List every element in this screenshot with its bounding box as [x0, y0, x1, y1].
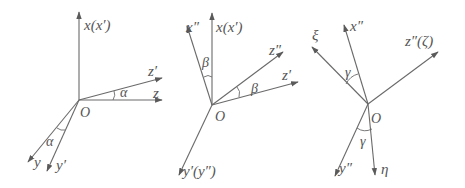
label-z-prime: z′ — [281, 67, 292, 83]
label-z-prime: z′ — [147, 63, 158, 79]
label-angle-gamma-2: γ — [360, 134, 366, 149]
label-angle-alpha-2: α — [46, 134, 54, 149]
label-x-x-prime: x(x′) — [83, 17, 111, 34]
angle-arc-beta-z — [237, 87, 240, 97]
panel-rotation-beta: x″ x(x′) β z″ z′ β O y′(y″) — [179, 13, 298, 180]
label-y-prime-y-double-prime: y′(y″) — [181, 163, 216, 180]
label-xi: ξ — [312, 27, 319, 43]
label-angle-beta-2: β — [250, 81, 258, 96]
y-axis — [28, 100, 79, 162]
panel-rotation-alpha: x(x′) z′ z α O α y y′ — [28, 12, 162, 173]
panel-rotation-gamma: ξ x″ γ z″(ζ) O γ y″ η — [312, 18, 438, 177]
zeta-axis — [368, 52, 438, 104]
label-y-prime: y′ — [54, 157, 67, 173]
label-origin: O — [80, 105, 90, 120]
label-z-double-prime: z″ — [268, 42, 282, 58]
label-y: y — [32, 154, 41, 170]
label-angle-gamma-1: γ — [345, 65, 351, 80]
label-angle-beta-1: β — [201, 55, 209, 70]
label-eta: η — [381, 161, 388, 177]
label-z-double-prime-zeta: z″(ζ) — [404, 33, 433, 50]
label-x-double-prime: x″ — [185, 19, 200, 35]
label-x-x-prime: x(x′) — [215, 19, 243, 36]
label-z: z — [152, 85, 159, 101]
label-origin: O — [215, 109, 225, 124]
angle-arc-beta-x — [204, 76, 212, 78]
angle-arc-alpha-y — [57, 128, 65, 130]
label-angle-alpha-1: α — [120, 85, 128, 100]
label-y-double-prime: y″ — [337, 160, 353, 176]
angle-arc-alpha-z — [113, 91, 115, 100]
euler-angle-diagram: x(x′) z′ z α O α y y′ x″ x(x′) β z″ z′ β… — [0, 0, 465, 188]
label-origin: O — [371, 111, 381, 126]
label-x-double-prime: x″ — [349, 18, 364, 34]
z-double-prime-axis — [212, 52, 283, 105]
angle-arc-gamma-bottom — [357, 128, 372, 131]
